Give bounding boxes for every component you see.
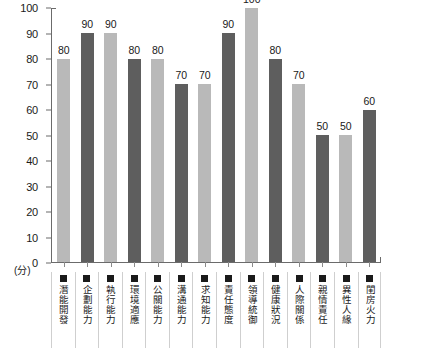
filled-square-marker-icon: [225, 275, 232, 282]
bar-value-label: 80: [58, 45, 70, 56]
bar-slot: 50: [311, 8, 335, 262]
bar-slot: 70: [287, 8, 311, 262]
bar-value-label: 70: [175, 70, 187, 81]
filled-square-marker-icon: [319, 275, 326, 282]
bar-value-label: 60: [363, 96, 375, 107]
y-axis-unit-label: (分): [14, 266, 31, 276]
bar: 90: [104, 33, 117, 262]
category-label-text: 異性人緣: [341, 285, 351, 325]
y-axis-tick-label: 60: [26, 105, 38, 116]
category-label-cell: 健康狀況: [263, 272, 287, 348]
y-axis-tick-label: 40: [26, 156, 38, 167]
filled-square-marker-icon: [154, 275, 161, 282]
filled-square-marker-icon: [296, 275, 303, 282]
category-label-cell: 公關能力: [145, 272, 169, 348]
bar-value-label: 80: [269, 45, 281, 56]
y-axis-tick-label: 50: [26, 130, 38, 141]
bar-value-label: 90: [105, 19, 117, 30]
x-axis-tick-mark: [369, 262, 370, 267]
x-axis-tick-mark: [64, 262, 65, 267]
plot-area: 80909080807070901008070505060: [51, 8, 381, 263]
category-label-cell: 企劃能力: [75, 272, 99, 348]
category-label-cell: 潛能開發: [51, 272, 75, 348]
category-label-cell: 領導統御: [240, 272, 264, 348]
bar-value-label: 80: [128, 45, 140, 56]
filled-square-marker-icon: [201, 275, 208, 282]
bar: 70: [175, 84, 188, 262]
bar: 100: [245, 8, 258, 262]
x-axis-tick-mark: [228, 262, 229, 267]
category-label-cell: 執行能力: [98, 272, 122, 348]
y-axis-tick-label: 10: [26, 232, 38, 243]
bar-slot: 70: [170, 8, 194, 262]
x-axis-tick-mark: [134, 262, 135, 267]
bar-slot: 90: [99, 8, 123, 262]
bar: 80: [128, 59, 141, 262]
category-label-strip: 潛能開發企劃能力執行能力環境適應公關能力溝通能力求知能力責任態度領導統御健康狀況…: [51, 272, 381, 348]
bar-slot: 90: [76, 8, 100, 262]
bar: 90: [81, 33, 94, 262]
filled-square-marker-icon: [131, 275, 138, 282]
filled-square-marker-icon: [248, 275, 255, 282]
y-axis-tick-label: 0: [32, 258, 38, 269]
filled-square-marker-icon: [178, 275, 185, 282]
filled-square-marker-icon: [60, 275, 67, 282]
bar-series: 80909080807070901008070505060: [52, 8, 381, 262]
bar: 90: [222, 33, 235, 262]
bar: 80: [269, 59, 282, 262]
bar-slot: 80: [146, 8, 170, 262]
bar-value-label: 70: [293, 70, 305, 81]
category-label-text: 健康狀況: [271, 285, 281, 325]
filled-square-marker-icon: [366, 275, 373, 282]
category-label-cell: 閨房火力: [358, 272, 382, 348]
x-axis-tick-mark: [111, 262, 112, 267]
y-axis-tick-label: 70: [26, 79, 38, 90]
x-axis-tick-mark: [181, 262, 182, 267]
bar: 80: [151, 59, 164, 262]
category-label-text: 溝通能力: [176, 285, 186, 325]
bar-slot: 70: [193, 8, 217, 262]
category-label-text: 潛能開發: [58, 285, 68, 325]
y-axis-tick-label: 90: [26, 28, 38, 39]
bar: 70: [198, 84, 211, 262]
bar-value-label: 50: [316, 121, 328, 132]
y-axis-tick-label: 20: [26, 207, 38, 218]
category-label-text: 企劃能力: [82, 285, 92, 325]
category-label-text: 閨房火力: [365, 285, 375, 325]
category-label-cell: 責任態度: [216, 272, 240, 348]
bar-slot: 100: [240, 8, 264, 262]
bar: 70: [292, 84, 305, 262]
filled-square-marker-icon: [343, 275, 350, 282]
bar: 60: [363, 110, 376, 262]
category-label-cell: 溝通能力: [169, 272, 193, 348]
x-axis-tick-mark: [205, 262, 206, 267]
bar-value-label: 90: [222, 19, 234, 30]
bar-value-label: 90: [81, 19, 93, 30]
x-axis-tick-mark: [252, 262, 253, 267]
bar-slot: 50: [334, 8, 358, 262]
category-label-text: 人際關係: [294, 285, 304, 325]
bar-value-label: 80: [152, 45, 164, 56]
category-label-text: 領導統御: [247, 285, 257, 325]
bar-slot: 80: [52, 8, 76, 262]
bar-value-label: 50: [340, 121, 352, 132]
bar-slot: 90: [217, 8, 241, 262]
x-axis-line: [51, 262, 381, 263]
category-label-cell: 人際關係: [287, 272, 311, 348]
category-label-text: 責任態度: [223, 285, 233, 325]
bar: 50: [339, 135, 352, 262]
category-label-cell: 求知能力: [192, 272, 216, 348]
filled-square-marker-icon: [83, 275, 90, 282]
category-label-cell: 異性人緣: [334, 272, 358, 348]
x-axis-tick-mark: [299, 262, 300, 267]
category-label-text: 親情責任: [318, 285, 328, 325]
x-axis-tick-mark: [346, 262, 347, 267]
bar-slot: 80: [123, 8, 147, 262]
category-label-cell: 親情責任: [310, 272, 334, 348]
filled-square-marker-icon: [272, 275, 279, 282]
category-label-text: 求知能力: [200, 285, 210, 325]
bar-slot: 80: [264, 8, 288, 262]
x-axis-tick-mark: [322, 262, 323, 267]
bar-value-label: 70: [199, 70, 211, 81]
bar: 80: [57, 59, 70, 262]
